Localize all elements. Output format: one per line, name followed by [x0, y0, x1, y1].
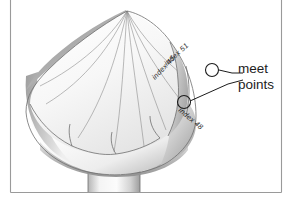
meet-points-line-2: points [238, 77, 274, 92]
technical-illustration: index 51 index 45 index 48 meet points [0, 0, 293, 209]
figure-container: index 51 index 45 index 48 meet points [0, 0, 293, 209]
meet-points-line-1: meet [238, 61, 268, 76]
